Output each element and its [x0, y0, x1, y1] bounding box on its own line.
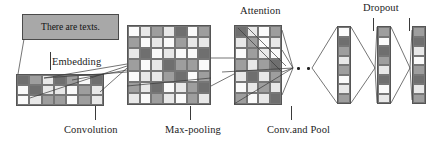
attention-cell	[235, 26, 247, 37]
attention-cell	[258, 26, 270, 37]
attention-cell	[247, 59, 259, 70]
label-convolution: Convolution	[64, 124, 118, 135]
convolution-cell	[17, 95, 29, 105]
dropout-tick-right	[409, 18, 410, 31]
embedding-cell	[151, 37, 163, 48]
dropout-tick-left	[373, 18, 374, 31]
attention-cell	[247, 82, 259, 93]
embedding-cell	[151, 93, 163, 104]
conv-and-pool-tick	[291, 106, 292, 120]
attention-cell	[247, 93, 259, 104]
convolution-cell	[29, 75, 41, 85]
convolution-cell	[17, 85, 29, 95]
dropout-vector-3-cell	[413, 46, 425, 56]
embedding-tick	[50, 52, 51, 70]
embedding-cell	[175, 71, 187, 82]
embedding-cell	[163, 37, 175, 48]
convolution-cell	[29, 85, 41, 95]
embedding-cell	[198, 26, 210, 37]
dropout-vector-3-cell	[413, 27, 425, 37]
convolution-cell	[66, 75, 78, 85]
convolution-matrix	[16, 74, 104, 106]
attention-cell	[270, 59, 282, 70]
embedding-cell	[140, 26, 152, 37]
embedding-cell	[151, 71, 163, 82]
embedding-cell	[198, 82, 210, 93]
embedding-cell	[175, 48, 187, 59]
dropout-vector-1-cell	[338, 75, 350, 85]
embedding-cell	[128, 48, 140, 59]
embedding-cell	[128, 26, 140, 37]
dropout-vector-3-cell	[413, 37, 425, 47]
convolution-cell	[42, 75, 54, 85]
embedding-cell	[128, 37, 140, 48]
embedding-cell	[140, 59, 152, 70]
attention-cell	[258, 48, 270, 59]
max-pooling-tick	[190, 106, 191, 120]
convolution-cell	[78, 95, 90, 105]
dropout-vector-2-cell	[378, 94, 390, 104]
dropout-vector-1-cell	[338, 37, 350, 47]
embedding-cell	[198, 71, 210, 82]
convolution-cell	[42, 95, 54, 105]
attention-cell	[235, 71, 247, 82]
dropout-vector-2-cell	[378, 37, 390, 47]
label-attention: Attention	[240, 5, 281, 16]
label-max-pooling: Max-pooling	[165, 124, 221, 135]
embedding-cell	[198, 37, 210, 48]
dropout-vector-3-cell	[413, 84, 425, 94]
attention-cell	[247, 48, 259, 59]
attention-cell	[258, 82, 270, 93]
embedding-cell	[128, 59, 140, 70]
ellipsis-dot-2	[307, 67, 310, 70]
embedding-cell	[163, 71, 175, 82]
embedding-cell	[175, 59, 187, 70]
embedding-cell	[163, 26, 175, 37]
dropout-vector-1-cell	[338, 46, 350, 56]
embedding-cell	[175, 26, 187, 37]
dropout-vector-3-cell	[413, 56, 425, 66]
embedding-cell	[187, 26, 199, 37]
input-text-label: There are texts.	[41, 22, 100, 32]
embedding-cell	[187, 82, 199, 93]
dropout-vector-3-cell	[413, 94, 425, 104]
attention-cell	[235, 82, 247, 93]
dropout-vector-2-cell	[378, 84, 390, 94]
dropout-vector-1-cell	[338, 27, 350, 37]
dropout-vector-2-cell	[378, 75, 390, 85]
convolution-cell	[91, 75, 103, 85]
attention-cell	[235, 37, 247, 48]
convolution-cell	[78, 85, 90, 95]
dropout-vector-2-cell	[378, 56, 390, 66]
embedding-cell	[151, 26, 163, 37]
attention-cell	[270, 37, 282, 48]
embedding-cell	[151, 82, 163, 93]
attention-cell	[270, 48, 282, 59]
convolution-cell	[54, 75, 66, 85]
embedding-cell	[198, 59, 210, 70]
embedding-cell	[198, 48, 210, 59]
convolution-cell	[91, 85, 103, 95]
embedding-cell	[163, 59, 175, 70]
dropout-vector-3-cell	[413, 65, 425, 75]
attention-cell	[270, 82, 282, 93]
embedding-cell	[187, 59, 199, 70]
embedding-matrix	[127, 25, 211, 105]
attention-cell	[247, 26, 259, 37]
embedding-cell	[151, 48, 163, 59]
attention-cell	[235, 59, 247, 70]
convolution-cell	[91, 95, 103, 105]
dropout-vector-2-cell	[378, 46, 390, 56]
embedding-cell	[175, 93, 187, 104]
attention-cell	[270, 71, 282, 82]
convolution-cell	[54, 95, 66, 105]
dropout-vector-1-cell	[338, 94, 350, 104]
attention-cell	[258, 59, 270, 70]
label-conv-and-pool: Conv.and Pool	[267, 124, 330, 135]
dropout-vector-2-cell	[378, 27, 390, 37]
convolution-cell	[78, 75, 90, 85]
convolution-cell	[29, 95, 41, 105]
embedding-cell	[163, 82, 175, 93]
dropout-vector-2-cell	[378, 65, 390, 75]
ellipsis-dot-1	[297, 67, 300, 70]
